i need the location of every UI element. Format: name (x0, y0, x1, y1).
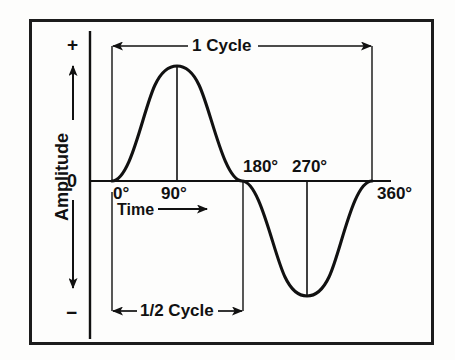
y-axis-positive-sign: + (67, 35, 78, 54)
half-cycle-label: 1/2 Cycle (140, 302, 214, 319)
x-tick-label-180: 180° (243, 158, 278, 175)
y-axis-zero-label: 0 (67, 172, 77, 190)
x-tick-label-0: 0° (113, 185, 129, 202)
x-tick-label-270: 270° (292, 158, 327, 175)
x-tick-label-360: 360° (377, 185, 412, 202)
waveform-figure: Amplitude + 0 − 1 Cycle 1/2 Cycle 0° 90°… (0, 0, 455, 360)
full-cycle-label: 1 Cycle (192, 37, 252, 54)
y-axis-negative-sign: − (66, 303, 77, 322)
x-tick-label-90: 90° (161, 185, 187, 202)
x-axis-title: Time (117, 202, 154, 218)
